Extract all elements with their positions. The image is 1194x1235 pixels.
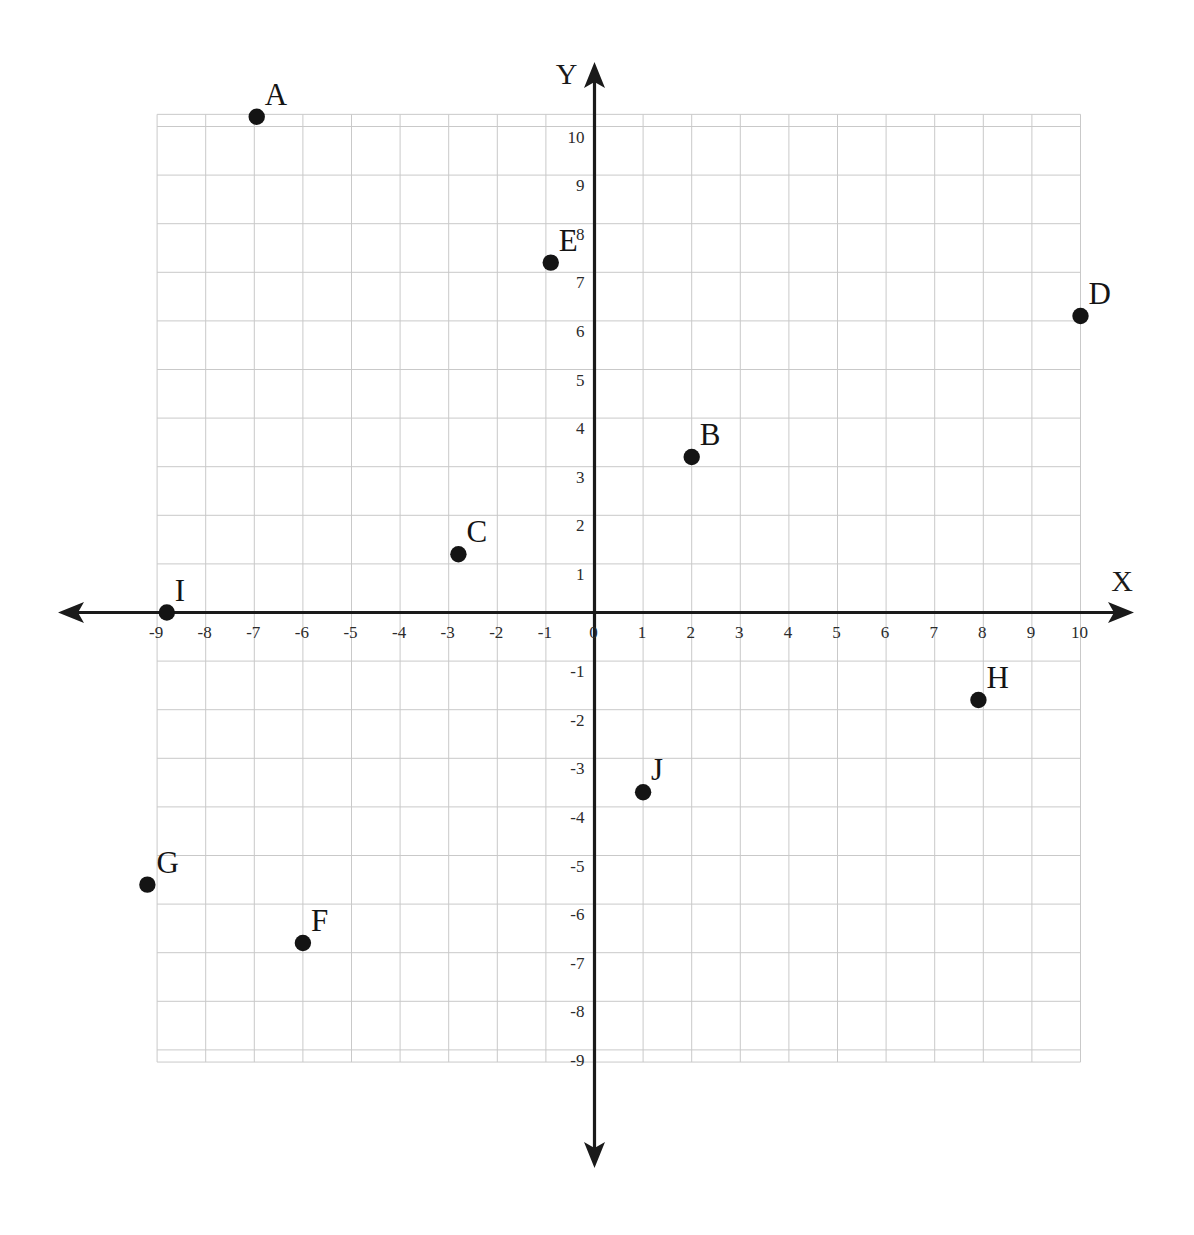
y-tick-label: -5 xyxy=(570,857,584,876)
y-tick-label: -4 xyxy=(570,808,585,827)
x-tick-label: 4 xyxy=(784,623,793,642)
y-tick-label: 6 xyxy=(576,322,585,341)
y-tick-label: 1 xyxy=(576,565,585,584)
point-label-b: B xyxy=(700,417,721,452)
point-label-g: G xyxy=(156,845,178,880)
y-tick-label: -3 xyxy=(570,759,584,778)
point-marker-f xyxy=(295,935,311,951)
x-tick-label: 6 xyxy=(881,623,890,642)
x-tick-label: -6 xyxy=(295,623,309,642)
coordinate-plane-figure: -9-8-7-6-5-4-3-2-1012345678910-9-8-7-6-5… xyxy=(0,0,1194,1235)
x-tick-label: -9 xyxy=(149,623,163,642)
y-tick-label: 10 xyxy=(568,128,585,147)
plotted-points-layer: ABCDEFGHIJ xyxy=(139,77,1111,951)
x-tick-label: 3 xyxy=(735,623,744,642)
plotted-point: J xyxy=(635,752,663,800)
plotted-point: F xyxy=(295,903,328,951)
y-tick-label: -2 xyxy=(570,711,584,730)
plotted-point: D xyxy=(1072,276,1111,324)
point-marker-b xyxy=(684,449,700,465)
plotted-point: G xyxy=(139,845,179,893)
y-tick-label: -9 xyxy=(570,1051,584,1070)
x-tick-label: 9 xyxy=(1027,623,1036,642)
point-label-j: J xyxy=(651,752,663,787)
plotted-point: C xyxy=(450,514,487,562)
point-label-h: H xyxy=(986,660,1008,695)
x-axis-name: X xyxy=(1111,564,1133,597)
x-tick-label: -1 xyxy=(538,623,552,642)
x-tick-label: -5 xyxy=(343,623,357,642)
point-marker-g xyxy=(139,876,155,892)
point-marker-j xyxy=(635,784,651,800)
y-tick-label: -6 xyxy=(570,905,584,924)
axes-layer xyxy=(58,62,1134,1168)
x-tick-label: -7 xyxy=(246,623,261,642)
x-tick-label: 1 xyxy=(638,623,647,642)
y-tick-label: 2 xyxy=(576,516,585,535)
x-tick-label: 2 xyxy=(686,623,695,642)
x-tick-label: -8 xyxy=(198,623,212,642)
point-label-d: D xyxy=(1089,276,1111,311)
plotted-point: B xyxy=(684,417,721,465)
tick-labels-layer: -9-8-7-6-5-4-3-2-1012345678910-9-8-7-6-5… xyxy=(149,128,1088,1070)
x-tick-label: -2 xyxy=(489,623,503,642)
plotted-point: E xyxy=(543,223,578,271)
x-tick-label: 5 xyxy=(832,623,841,642)
plotted-point: A xyxy=(249,77,288,125)
point-marker-h xyxy=(970,692,986,708)
y-tick-label: 4 xyxy=(576,419,585,438)
y-axis-name: Y xyxy=(556,57,578,90)
point-label-i: I xyxy=(175,573,185,608)
point-marker-e xyxy=(543,254,559,270)
point-marker-c xyxy=(450,546,466,562)
y-tick-label: 9 xyxy=(576,176,585,195)
x-tick-label: -3 xyxy=(441,623,455,642)
coordinate-plane-svg: -9-8-7-6-5-4-3-2-1012345678910-9-8-7-6-5… xyxy=(0,0,1194,1235)
point-label-e: E xyxy=(559,223,578,258)
x-tick-label: 8 xyxy=(978,623,987,642)
y-tick-label: 5 xyxy=(576,371,585,390)
grid-layer xyxy=(157,114,1080,1062)
y-tick-label: -8 xyxy=(570,1002,584,1021)
point-label-c: C xyxy=(466,514,487,549)
x-tick-label: -4 xyxy=(392,623,407,642)
point-label-f: F xyxy=(311,903,328,938)
y-tick-label: -1 xyxy=(570,662,584,681)
point-label-a: A xyxy=(265,77,288,112)
point-marker-d xyxy=(1072,308,1088,324)
plotted-point: H xyxy=(970,660,1009,708)
y-tick-label: -7 xyxy=(570,954,585,973)
point-marker-i xyxy=(159,604,175,620)
x-tick-label: 7 xyxy=(929,623,938,642)
y-tick-label: 7 xyxy=(576,273,585,292)
x-tick-label: 10 xyxy=(1071,623,1088,642)
x-tick-label: 0 xyxy=(589,623,598,642)
y-tick-label: 3 xyxy=(576,468,585,487)
point-marker-a xyxy=(249,109,265,125)
